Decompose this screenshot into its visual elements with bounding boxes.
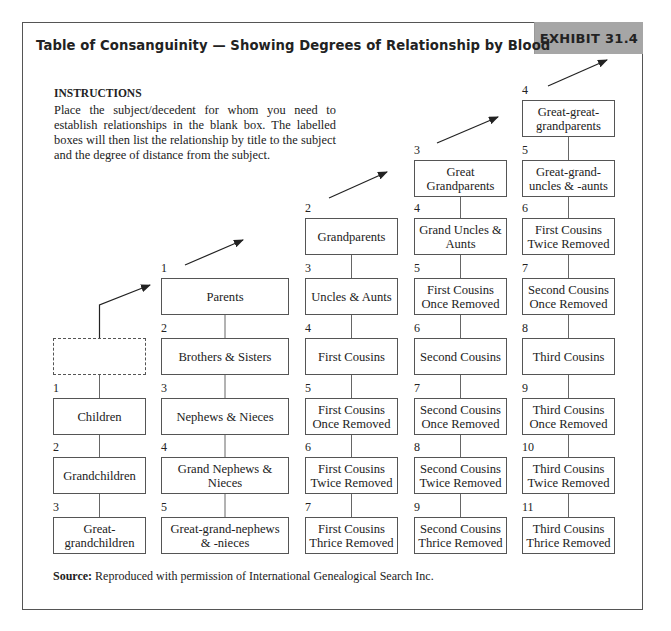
relationship-box: Great-grandchildren [53, 517, 146, 554]
degree-number: 4 [305, 322, 311, 334]
relationship-box: Third Cousins Thrice Removed [522, 517, 615, 554]
degree-number: 10 [522, 441, 534, 453]
relationship-box: First Cousins Thrice Removed [305, 517, 398, 554]
degree-number: 4 [522, 84, 528, 96]
relationship-box: Second Cousins Thrice Removed [414, 517, 507, 554]
relationship-box: Great Grandparents [414, 160, 507, 197]
degree-number: 4 [414, 202, 420, 214]
relationship-box: Second Cousins Twice Removed [414, 457, 507, 494]
relationship-box: Second Cousins Once Removed [414, 398, 507, 435]
relationship-box: Brothers & Sisters [161, 338, 289, 375]
degree-number: 9 [522, 382, 528, 394]
degree-number: 7 [414, 382, 420, 394]
degree-number: 5 [522, 144, 528, 156]
degree-number: 2 [305, 202, 311, 214]
relationship-box: Uncles & Aunts [305, 278, 398, 315]
degree-number: 8 [414, 441, 420, 453]
relationship-box: Third Cousins Once Removed [522, 398, 615, 435]
degree-number: 6 [414, 322, 420, 334]
relationship-box: Great-great-grandparents [522, 100, 615, 137]
degree-number: 2 [53, 441, 59, 453]
relationship-box: First Cousins [305, 338, 398, 375]
relationship-box: Nephews & Nieces [161, 398, 289, 435]
relationship-box: Great-grand-uncles & -aunts [522, 160, 615, 197]
relationship-box: First Cousins Twice Removed [305, 457, 398, 494]
degree-number: 11 [522, 501, 534, 513]
degree-number: 3 [414, 144, 420, 156]
relationship-box: Third Cousins [522, 338, 615, 375]
relationship-box: Second Cousins [414, 338, 507, 375]
relationship-box: Grand Uncles & Aunts [414, 218, 507, 255]
source-text: Reproduced with permission of Internatio… [95, 569, 434, 583]
generation-arrow [437, 117, 498, 143]
degree-number: 7 [305, 501, 311, 513]
generation-arrow [548, 60, 607, 86]
degree-number: 5 [161, 501, 167, 513]
relationship-box: First Cousins Once Removed [414, 278, 507, 315]
degree-number: 5 [414, 262, 420, 274]
generation-arrow [185, 240, 243, 265]
relationship-box: First Cousins Once Removed [305, 398, 398, 435]
relationship-box: Third Cousins Twice Removed [522, 457, 615, 494]
source-label: Source: [53, 569, 92, 583]
relationship-box: First Cousins Twice Removed [522, 218, 615, 255]
degree-number: 7 [522, 262, 528, 274]
degree-number: 3 [161, 382, 167, 394]
degree-number: 1 [53, 382, 59, 394]
relationship-box: Grandparents [305, 218, 398, 255]
degree-number: 8 [522, 322, 528, 334]
relationship-box: Great-grand-nephews & -nieces [161, 517, 289, 554]
degree-number: 4 [161, 441, 167, 453]
subject-blank-box [53, 338, 146, 375]
relationship-box: Children [53, 398, 146, 435]
source-note: Source: Reproduced with permission of In… [53, 569, 434, 584]
degree-number: 3 [305, 262, 311, 274]
degree-number: 6 [305, 441, 311, 453]
relationship-box: Second Cousins Once Removed [522, 278, 615, 315]
degree-number: 3 [53, 501, 59, 513]
relationship-box: Parents [161, 278, 289, 315]
degree-number: 9 [414, 501, 420, 513]
relationship-box: Grand Nephews & Nieces [161, 457, 289, 494]
degree-number: 1 [161, 262, 167, 274]
degree-number: 5 [305, 382, 311, 394]
relationship-box: Grandchildren [53, 457, 146, 494]
degree-number: 2 [161, 322, 167, 334]
generation-arrow [329, 172, 387, 198]
subject-to-parents-arrow [100, 285, 151, 338]
degree-number: 6 [522, 202, 528, 214]
